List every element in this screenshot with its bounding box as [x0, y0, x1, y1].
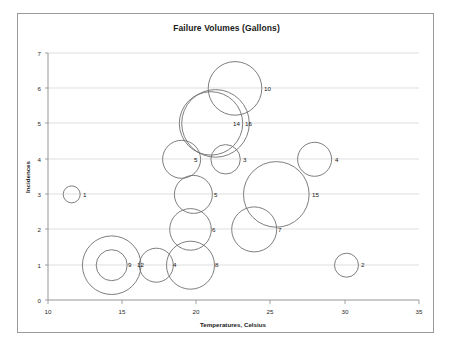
x-tick-30: 30 [342, 308, 349, 315]
gridlines [48, 53, 419, 265]
bubble-label-1: 1 [83, 191, 87, 198]
y-tick-6: 6 [38, 85, 42, 92]
x-tick-marks [48, 300, 419, 304]
bubble-6[interactable] [170, 209, 212, 251]
bubble-data-labels: 1 2 3 4 4 5 5 6 7 8 9 10 12 14 16 15 [83, 85, 365, 269]
bubble-label-12: 12 [137, 261, 144, 268]
bubble-label-3: 3 [243, 156, 247, 163]
bubble-label-5b: 5 [214, 191, 218, 198]
y-tick-4: 4 [38, 156, 42, 163]
bubble-label-5a: 5 [194, 156, 198, 163]
bubble-label-15: 15 [312, 191, 319, 198]
bubble-5b[interactable] [174, 175, 212, 213]
x-tick-10: 10 [45, 308, 52, 315]
y-tick-2: 2 [38, 226, 42, 233]
y-tick-labels: 7 6 5 4 3 2 1 0 [38, 50, 42, 304]
x-tick-20: 20 [193, 308, 200, 315]
bubble-series [63, 62, 358, 295]
bubble-label-16: 16 [245, 120, 252, 127]
y-tick-3: 3 [38, 191, 42, 198]
y-axis-title: Incidences [24, 160, 31, 193]
y-tick-5: 5 [38, 120, 42, 127]
x-axis-title: Temperatures, Celsius [200, 321, 266, 328]
bubble-10[interactable] [208, 62, 262, 116]
bubble-label-4a: 4 [335, 156, 339, 163]
bubble-label-7: 7 [278, 226, 282, 233]
bubble-label-14: 14 [233, 120, 240, 127]
chart-frame: Failure Volumes (Gallons) [17, 13, 434, 333]
x-tick-labels: 10 15 20 25 30 35 [45, 308, 423, 315]
bubble-label-9: 9 [128, 261, 132, 268]
x-tick-15: 15 [119, 308, 126, 315]
bubble-label-2: 2 [361, 261, 365, 268]
bubble-label-6: 6 [212, 226, 216, 233]
x-tick-25: 25 [267, 308, 274, 315]
bubble-15[interactable] [243, 162, 309, 228]
y-tick-7: 7 [38, 50, 42, 57]
y-tick-1: 1 [38, 262, 42, 269]
x-tick-35: 35 [416, 308, 423, 315]
y-tick-0: 0 [38, 297, 42, 304]
bubble-label-4b: 4 [173, 261, 177, 268]
bubble-label-8: 8 [215, 261, 219, 268]
bubble-chart-plot: 7 6 5 4 3 2 1 0 10 15 20 25 30 35 Temper… [18, 14, 435, 334]
bubble-7[interactable] [232, 207, 277, 252]
bubble-1[interactable] [63, 186, 80, 203]
bubble-label-10: 10 [264, 85, 271, 92]
